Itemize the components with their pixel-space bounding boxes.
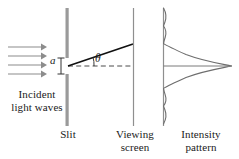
pattern-label-line2: pattern [185,141,216,153]
incident-label-line1: Incident [19,88,56,100]
slit-barrier-upper [66,8,69,58]
angle-theta-label: θ [95,52,101,64]
slit-label: Slit [38,128,98,141]
incident-arrow-1 [8,44,47,51]
slit-width-label: a [50,54,56,66]
angle-arc [93,57,94,66]
incident-light-waves-label: Incident light waves [0,88,74,113]
screen-label-line2: screen [121,141,150,153]
intensity-pattern-label: Intensity pattern [168,128,234,153]
pattern-label-line1: Intensity [181,128,220,140]
viewing-screen-label: Viewing screen [104,128,166,153]
incident-arrow-3 [8,62,47,69]
incident-wave-arrows [8,44,47,78]
single-slit-diffraction-figure: a θ Incident light waves Slit Viewing sc… [0,0,239,159]
incident-label-line2: light waves [11,101,63,113]
screen-label-line1: Viewing [116,128,154,140]
slit-width-dimension [58,58,65,74]
incident-arrow-4 [8,71,47,78]
incident-arrow-2 [8,53,47,60]
